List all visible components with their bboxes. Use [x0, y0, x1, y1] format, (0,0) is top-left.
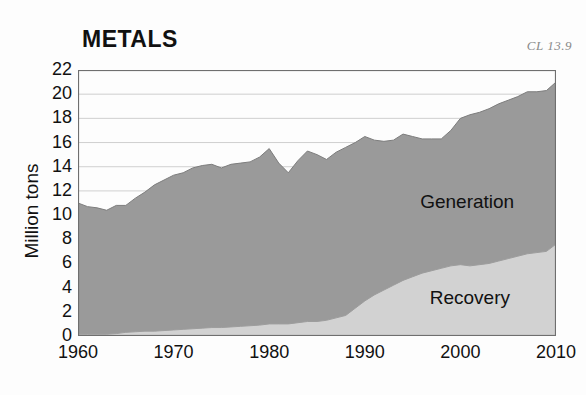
plot-area: Generation Recovery [78, 70, 556, 336]
series-label-recovery: Recovery [430, 287, 510, 309]
y-tick-label: 8 [38, 228, 72, 249]
y-axis-tick-labels: 2220181614121086420 [32, 70, 72, 336]
chart-figure: METALS CL 13.9 Million tons 222018161412… [0, 0, 586, 395]
y-tick-label: 22 [38, 59, 72, 80]
x-tick-label: 2000 [425, 342, 495, 363]
series-label-generation: Generation [420, 191, 514, 213]
y-tick-label: 14 [38, 156, 72, 177]
x-tick-label: 1980 [234, 342, 304, 363]
x-tick-label: 2010 [521, 342, 586, 363]
y-tick-label: 16 [38, 132, 72, 153]
y-tick-label: 20 [38, 83, 72, 104]
x-axis-tick-labels: 196019701980199020002010 [78, 342, 556, 368]
y-tick-label: 10 [38, 204, 72, 225]
y-tick-label: 12 [38, 180, 72, 201]
y-tick-label: 4 [38, 277, 72, 298]
corner-note-label: CL 13.9 [527, 38, 572, 54]
y-tick-label: 6 [38, 252, 72, 273]
x-tick-label: 1970 [139, 342, 209, 363]
y-tick-label: 2 [38, 301, 72, 322]
x-tick-label: 1960 [43, 342, 113, 363]
page-title: METALS [82, 26, 178, 53]
y-tick-label: 18 [38, 107, 72, 128]
x-tick-label: 1990 [330, 342, 400, 363]
